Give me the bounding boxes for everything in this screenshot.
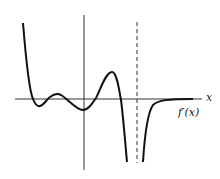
x-axis-label: x: [206, 91, 212, 104]
curve-label: f′(x): [178, 106, 199, 119]
curve-left-branch: [23, 23, 127, 162]
plot-area: [0, 0, 220, 179]
chart: x f′(x): [0, 0, 220, 179]
